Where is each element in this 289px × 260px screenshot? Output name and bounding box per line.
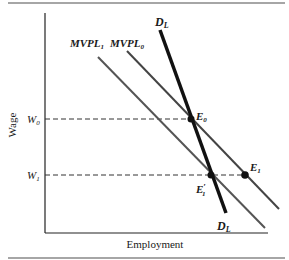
mvpl1-curve [98, 57, 265, 228]
mvpl1-label: MVPL1 [69, 37, 104, 51]
y-axis-title: Wage [6, 113, 18, 138]
point-e1prime [208, 172, 215, 179]
point-e0 [188, 116, 195, 123]
demand-bottom-label: DL [216, 219, 231, 234]
mvpl0-label: MVPL0 [109, 37, 145, 51]
e0-label: E0 [195, 110, 207, 124]
e1-label: E1 [249, 161, 261, 175]
point-e1 [241, 171, 249, 179]
demand-top-label: DL [154, 15, 169, 30]
labor-demand-diagram: MVPL1 MVPL0 DL DL E0 E1 E′1 W0 W1 Wage E… [0, 0, 289, 260]
e1prime-label: E′1 [195, 182, 206, 198]
x-axis-title: Employment [127, 238, 184, 250]
w0-tick-label: W0 [27, 113, 40, 127]
w1-tick-label: W1 [27, 169, 40, 183]
